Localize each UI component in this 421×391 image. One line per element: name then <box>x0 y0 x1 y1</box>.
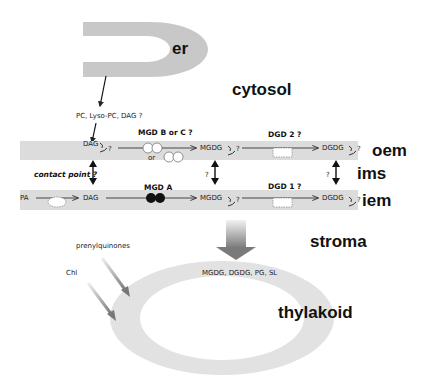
iem-mgdg-flip-q: ? <box>236 196 240 204</box>
iem-enzyme-dgd1: DGD 1 ? <box>268 182 301 191</box>
er-export-lipids: PC, Lyso-PC, DAG ? <box>76 112 143 120</box>
mgd-bc-alt-enzyme-icon <box>173 152 183 162</box>
thylakoid-lipids: MGDG, DGDG, PG, SL <box>202 269 277 277</box>
oem-dgdg: DGDG <box>322 144 344 152</box>
chl-arrow <box>88 283 116 321</box>
ims-dgdg-transfer-arrow <box>332 160 340 185</box>
iem-dag: DAG <box>83 194 98 202</box>
mgd-a-enzyme-icon <box>146 193 156 203</box>
iem-mgdg: MGDG <box>200 194 222 202</box>
iem-pa: PA <box>20 194 29 202</box>
stroma-label: stroma <box>310 232 367 251</box>
ims-mgdg-q: ? <box>205 171 209 179</box>
ims-label: ims <box>357 164 386 183</box>
er-label: er <box>172 39 188 58</box>
iem-membrane <box>20 190 358 210</box>
oem-label: oem <box>372 141 407 160</box>
chl-label: Chl <box>66 269 77 277</box>
oem-mgdg-flip-q: ? <box>236 145 240 153</box>
oem-membrane <box>20 141 358 160</box>
oem-enzyme-or: or <box>148 154 155 162</box>
oem-enzyme-dgd2: DGD 2 ? <box>268 130 301 139</box>
contact-point-label: contact point ? <box>34 170 98 179</box>
dgd1-enzyme-icon <box>273 198 292 207</box>
ims-dgdg-q: ? <box>326 171 330 179</box>
galactolipid-pathway-diagram: er PC, Lyso-PC, DAG ? cytosol oem DAG ? … <box>0 0 421 391</box>
mgd-bc-enzyme-icon <box>152 143 162 153</box>
prenylquinones-label: prenylquinones <box>76 242 130 250</box>
export-to-thylakoid-arrow <box>216 220 256 260</box>
mgd-bc-enzyme-icon <box>143 143 153 153</box>
prenylquinones-arrow <box>102 258 130 297</box>
oem-enzyme-mgd-b-c: MGD B or C ? <box>138 128 193 137</box>
ims-mgdg-transfer-arrow <box>211 160 219 185</box>
iem-dgdg: DGDG <box>322 194 344 202</box>
thylakoid-label: thylakoid <box>278 303 353 322</box>
iem-enzyme-mgd-a: MGD A <box>144 183 172 192</box>
mgd-a-enzyme-icon <box>155 193 165 203</box>
iem-dgdg-flip-q: ? <box>357 196 361 204</box>
pa-phosphatase-enzyme-icon <box>48 197 66 207</box>
oem-dgdg-flip-q: ? <box>357 145 361 153</box>
er-export-arrow <box>100 76 106 106</box>
er-membrane <box>83 22 208 77</box>
cytosol-label: cytosol <box>232 80 292 99</box>
oem-dag-flip-q: ? <box>108 145 112 153</box>
oem-mgdg: MGDG <box>200 144 222 152</box>
mgd-bc-alt-enzyme-icon <box>164 152 174 162</box>
oem-dag: DAG <box>83 140 98 148</box>
dgd2-enzyme-icon <box>273 148 292 157</box>
iem-label: iem <box>362 191 391 210</box>
